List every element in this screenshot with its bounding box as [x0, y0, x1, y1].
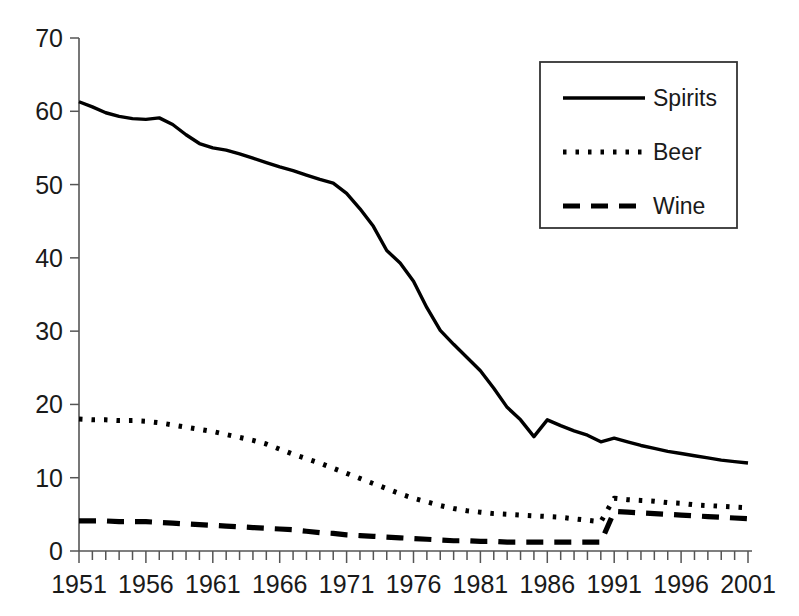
x-tick-label: 1996 — [653, 570, 709, 598]
x-tick-label: 1961 — [185, 570, 241, 598]
legend-label: Beer — [653, 139, 702, 165]
y-tick-label: 20 — [35, 390, 63, 418]
x-tick-label: 2001 — [720, 570, 776, 598]
x-tick-label: 1981 — [453, 570, 509, 598]
y-tick-label: 30 — [35, 317, 63, 345]
y-tick-label: 60 — [35, 97, 63, 125]
y-tick-label: 40 — [35, 244, 63, 272]
x-tick-label: 1976 — [386, 570, 442, 598]
x-tick-label: 1971 — [319, 570, 375, 598]
x-tick-label: 1966 — [252, 570, 308, 598]
x-tick-label: 1956 — [118, 570, 174, 598]
x-tick-label: 1986 — [519, 570, 575, 598]
y-tick-label: 70 — [35, 24, 63, 52]
x-axis-tick-labels: 1951195619611966197119761981198619911996… — [51, 570, 776, 598]
legend-label: Spirits — [653, 85, 717, 111]
y-tick-label: 0 — [49, 537, 63, 565]
line-chart: 010203040506070 195119561961196619711976… — [0, 0, 799, 616]
y-tick-label: 50 — [35, 171, 63, 199]
y-tick-label: 10 — [35, 464, 63, 492]
legend-label: Wine — [653, 193, 705, 219]
chart-container: 010203040506070 195119561961196619711976… — [0, 0, 799, 616]
x-tick-label: 1991 — [586, 570, 642, 598]
x-tick-label: 1951 — [51, 570, 107, 598]
chart-legend: SpiritsBeerWine — [540, 62, 737, 228]
